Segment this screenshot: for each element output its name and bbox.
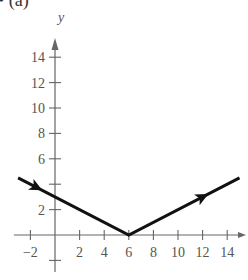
x-tick-label: 12 — [196, 245, 210, 260]
y-tick-label: 12 — [31, 76, 45, 91]
x-tick-label: 14 — [220, 245, 234, 260]
x-tick-label: 10 — [171, 245, 185, 260]
chart-canvas: −22468101214268101214y — [0, 0, 248, 280]
function-curve — [18, 178, 239, 235]
y-tick-label: 2 — [38, 203, 45, 218]
y-axis-arrow-icon — [52, 38, 59, 50]
x-tick-label: 8 — [150, 245, 157, 260]
y-tick-label: 6 — [38, 152, 45, 167]
x-tick-label: 4 — [101, 245, 108, 260]
y-tick-label: 10 — [31, 101, 45, 116]
x-tick-label: 2 — [76, 245, 83, 260]
y-tick-label: 8 — [38, 126, 45, 141]
x-axis-arrow-icon — [238, 232, 246, 238]
x-tick-label: 6 — [125, 245, 132, 260]
x-tick-label: −2 — [23, 245, 38, 260]
y-tick-label: 14 — [31, 50, 45, 65]
y-axis-label: y — [56, 10, 65, 25]
